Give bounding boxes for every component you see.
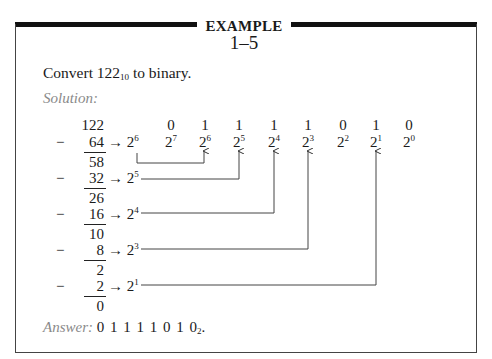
answer-label: Answer: (43, 319, 93, 335)
connector-arrows (0, 0, 492, 359)
answer-line: Answer: 0 1 1 1 1 0 1 02. (43, 320, 205, 335)
answer-bits: 0 1 1 1 1 0 1 0 (97, 319, 197, 335)
